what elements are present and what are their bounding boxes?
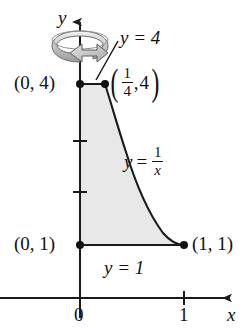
label-point-quarter-4: ( 1 4 , 4 ) <box>108 66 162 99</box>
point-0-1 <box>76 241 84 249</box>
label-point-0-1: (0, 1) <box>14 234 55 253</box>
rotation-arrow-icon <box>52 31 108 62</box>
y-axis-label: y <box>58 8 66 27</box>
label-y-symbol: y <box>124 152 132 171</box>
label-line-y-equals-4: y = 4 <box>120 28 160 47</box>
fraction-one-quarter: 1 4 <box>122 66 133 99</box>
label-point-0-4: (0, 4) <box>14 73 55 92</box>
label-comma: , <box>134 73 139 92</box>
x-axis-tick-label-0: 0 <box>74 305 84 324</box>
x-axis-tick-label-1: 1 <box>179 305 189 324</box>
label-curve-y-equals-1-over-x: y = 1 x <box>124 145 164 178</box>
x-axis-label: x <box>227 305 235 324</box>
fraction-one-over-x: 1 x <box>152 145 163 178</box>
paren-close: ) <box>151 67 159 98</box>
label-line-y-equals-1: y = 1 <box>104 258 144 277</box>
label-equals-sign: = <box>136 152 147 171</box>
point-1-1 <box>180 241 188 249</box>
paren-open: ( <box>110 67 118 98</box>
point-0-4 <box>76 80 84 88</box>
label-point-1-1: (1, 1) <box>192 234 233 253</box>
label-y-value: 4 <box>139 73 149 92</box>
